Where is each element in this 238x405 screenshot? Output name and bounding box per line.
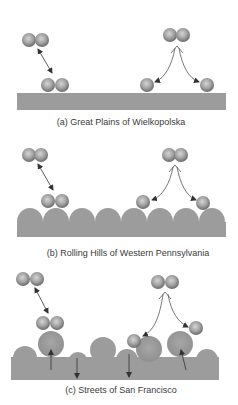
dissociation-arrow-left	[152, 167, 173, 200]
gas-molecule-left	[16, 272, 44, 286]
caption-c: (c) Streets of San Francisco	[65, 385, 177, 395]
adsorbed-molecule	[36, 316, 64, 330]
gas-molecule-right	[162, 148, 188, 162]
panel-c: (c) Streets of San Francisco	[11, 272, 219, 395]
adsorbed-atom-left	[127, 334, 141, 348]
gas-molecule-left	[22, 33, 49, 47]
surface-adsorption-diagram: (a) Great Plains of Wielkopolska (b) Rol…	[0, 0, 238, 405]
arrow-head-open	[159, 292, 171, 299]
adsorbed-atom-right	[196, 196, 210, 210]
gas-molecule-right	[151, 275, 179, 289]
adsorption-arrow	[38, 164, 53, 190]
adsorbed-atom-right	[189, 321, 203, 335]
arrow-head-open	[171, 46, 183, 53]
dissociation-arrow-right	[179, 48, 199, 82]
arrow-head-open	[169, 165, 181, 172]
adsorbed-molecule	[41, 194, 69, 208]
gas-molecule-right	[163, 28, 190, 42]
flat-surface	[17, 93, 226, 110]
dissociation-arrow-left	[155, 48, 175, 82]
adsorption-arrow	[38, 49, 52, 73]
adsorption-arrow	[35, 288, 48, 313]
gas-molecule-left	[22, 148, 48, 162]
bumpy-surface	[17, 208, 226, 237]
panel-a: (a) Great Plains of Wielkopolska	[17, 28, 226, 127]
caption-b: (b) Rolling Hills of Western Pennsylvani…	[47, 248, 209, 258]
adsorbed-atom-left	[136, 195, 150, 209]
adsorbed-atom-right	[200, 78, 214, 92]
panel-b: (b) Rolling Hills of Western Pennsylvani…	[17, 148, 226, 258]
raised-surface-atom	[167, 331, 193, 357]
adsorbed-atom-left	[140, 78, 154, 92]
adsorbed-molecule	[41, 78, 69, 92]
dissociation-arrow-right	[177, 167, 196, 200]
dissociation-arrow-left	[143, 294, 163, 336]
caption-a: (a) Great Plains of Wielkopolska	[57, 117, 186, 127]
